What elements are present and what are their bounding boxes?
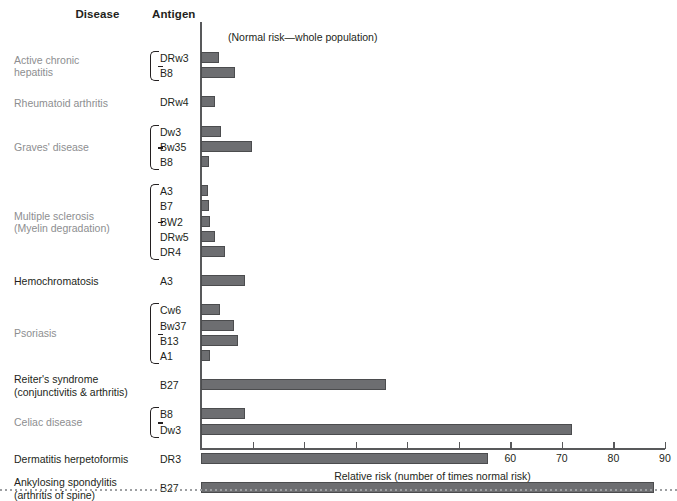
disease-label-line: Multiple sclerosis [14,210,154,223]
x-axis-line [200,448,665,450]
x-axis-tick [665,442,666,449]
bar [201,424,572,435]
antigen-label: B7 [160,200,216,213]
bar [201,482,654,493]
disease-label: Reiter's syndrome(conjunctivitis & arthr… [14,373,154,398]
disease-label-line: Reiter's syndrome [14,373,154,386]
antigen-label: B8 [160,408,216,421]
disease-label-line: hepatitis [14,66,154,79]
x-axis-tick [510,442,511,449]
antigen-label: A3 [160,275,216,288]
antigen-label: BW2 [160,216,216,229]
x-axis-tick [613,442,614,449]
disease-label-line: Psoriasis [14,327,154,340]
column-header-antigen: Antigen [152,8,224,20]
x-axis-tick-label: 90 [659,452,671,464]
antigen-label: B8 [160,67,216,80]
disease-label-line: (Myelin degradation) [14,222,154,235]
disease-label: Hemochromatosis [14,275,154,288]
disease-label-line: Celiac disease [14,416,154,429]
antigen-label: A1 [160,350,216,363]
disease-label-line: Hemochromatosis [14,275,154,288]
antigen-label: DRw5 [160,231,216,244]
x-axis-title: Relative risk (number of times normal ri… [200,470,665,482]
antigen-label: Cw6 [160,304,216,317]
antigen-label: DR4 [160,246,216,259]
disease-label-line: (conjunctivitis & arthritis) [14,386,154,399]
antigen-label: DRw4 [160,96,216,109]
x-axis-tick [459,442,460,449]
disease-label-line: Rheumatoid arthritis [14,97,154,110]
x-axis-tick [356,442,357,449]
antigen-label: Dw3 [160,126,216,139]
group-brace [150,51,159,81]
disease-label: Psoriasis [14,327,154,340]
disease-label: Active chronichepatitis [14,54,154,79]
antigen-label: DRw3 [160,52,216,65]
column-header-disease: Disease [30,8,165,20]
group-brace [150,184,159,260]
bar [201,379,386,390]
disease-label-line: Dermatitis herpetoformis [14,453,154,466]
bar [201,453,488,464]
x-axis-tick [407,442,408,449]
disease-label: Graves' disease [14,141,154,154]
antigen-label: Bw37 [160,320,216,333]
disease-label: Rheumatoid arthritis [14,97,154,110]
antigen-label: B8 [160,156,216,169]
disease-label-line: Graves' disease [14,141,154,154]
antigen-label: A3 [160,185,216,198]
disease-label: Dermatitis herpetoformis [14,453,154,466]
disease-label: Celiac disease [14,416,154,429]
x-axis-tick [562,442,563,449]
disease-label-line: Active chronic [14,54,154,67]
group-brace [150,125,159,170]
x-axis-tick-label: 70 [556,452,568,464]
antigen-label: DR3 [160,453,216,466]
normal-risk-annotation: (Normal risk—whole population) [228,31,377,43]
x-axis-tick [304,442,305,449]
antigen-label: B13 [160,335,216,348]
group-brace [150,303,159,364]
antigen-label: Dw3 [160,424,216,437]
group-brace [150,407,159,437]
x-axis-tick-label: 80 [608,452,620,464]
antigen-label: Bw35 [160,141,216,154]
antigen-label: B27 [160,379,216,392]
bottom-dotted-rule [0,489,677,491]
disease-label-line: Ankylosing spondylitis [14,476,154,489]
x-axis-tick [253,442,254,449]
disease-label: Multiple sclerosis(Myelin degradation) [14,210,154,235]
x-axis-tick-label: 60 [504,452,516,464]
